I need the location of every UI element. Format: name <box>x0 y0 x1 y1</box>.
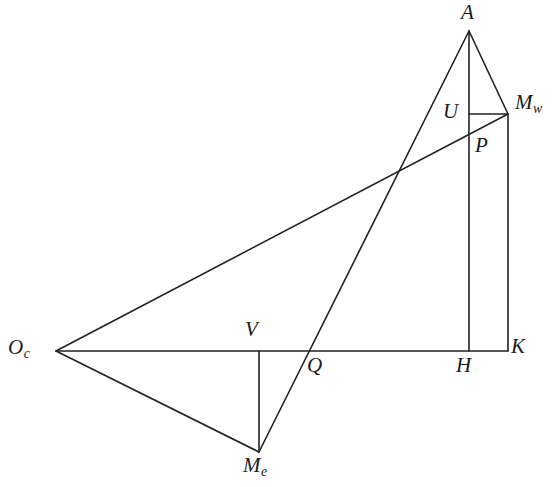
vertex-label-Q: Q <box>307 355 322 376</box>
vertex-label-K: K <box>511 336 525 357</box>
vertex-label-P: P <box>475 135 488 156</box>
ray-Me-through-Q-to-A <box>259 31 469 452</box>
vertex-label-U: U <box>443 101 458 122</box>
segment-A-to-Mw <box>469 31 508 114</box>
ray-Oc-to-Mw <box>56 114 508 351</box>
geometry-canvas <box>0 0 556 487</box>
vertex-label-Mw: Mw <box>515 92 542 113</box>
geometry-diagram: AMwUPOcVQHKMe <box>0 0 556 487</box>
vertex-label-H: H <box>456 355 471 376</box>
vertex-label-Oc: Oc <box>8 337 30 358</box>
vertex-label-Me: Me <box>243 455 267 476</box>
vertex-label-V: V <box>245 319 258 340</box>
segment-layer <box>56 31 508 452</box>
segment-Oc-to-Me <box>56 351 259 452</box>
vertex-label-A: A <box>461 2 474 23</box>
